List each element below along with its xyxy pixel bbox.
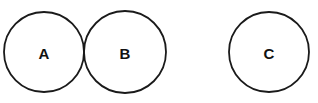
- circle-c-label: C: [264, 45, 275, 62]
- circle-b-label: B: [120, 45, 131, 62]
- circles-diagram: A B C: [0, 0, 318, 103]
- circle-a-group: A: [4, 12, 84, 92]
- circle-a-label: A: [39, 45, 50, 62]
- circle-b-group: B: [84, 11, 166, 93]
- circle-c-group: C: [229, 12, 309, 92]
